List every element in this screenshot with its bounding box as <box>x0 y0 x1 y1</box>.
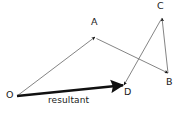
point-label-a: A <box>91 17 98 26</box>
point-label-o: O <box>6 90 13 99</box>
point-label-b: B <box>166 77 173 86</box>
resultant-label: resultant <box>48 96 89 105</box>
vector-line-cd <box>124 20 161 86</box>
vector-line-bc <box>162 18 168 73</box>
vector-line-oa <box>17 37 95 96</box>
point-label-c: C <box>157 1 164 10</box>
vector-group-thin <box>17 18 168 96</box>
vector-line-ab <box>97 39 169 74</box>
point-label-d: D <box>124 87 131 96</box>
vector-diagram-figure: O A B C D resultant <box>0 0 183 113</box>
